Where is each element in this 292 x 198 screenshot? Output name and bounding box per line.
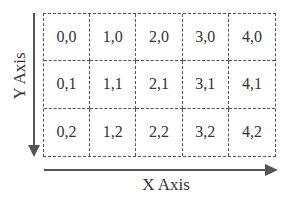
grid-cell: 4,0 — [229, 14, 275, 61]
cell-grid: 0,0 1,0 2,0 3,0 4,0 0,1 1,1 2,1 3,1 4,1 … — [43, 13, 276, 157]
y-axis-line — [33, 13, 35, 148]
x-axis-label: X Axis — [128, 175, 204, 195]
grid-cell: 2,2 — [136, 109, 182, 156]
grid-cell: 3,2 — [183, 109, 229, 156]
grid-cell: 3,0 — [183, 14, 229, 61]
grid-cell: 0,1 — [44, 61, 90, 108]
grid-cell: 4,2 — [229, 109, 275, 156]
grid-cell: 2,0 — [136, 14, 182, 61]
grid-cell: 0,0 — [44, 14, 90, 61]
grid-cell: 2,1 — [136, 61, 182, 108]
x-axis-line — [44, 169, 266, 171]
grid-cell: 1,2 — [90, 109, 136, 156]
x-axis-arrow-icon — [265, 164, 278, 176]
y-axis-label: Y Axis — [10, 38, 30, 114]
grid-cell: 0,2 — [44, 109, 90, 156]
grid-cell: 1,0 — [90, 14, 136, 61]
grid-cell: 3,1 — [183, 61, 229, 108]
grid-cell: 1,1 — [90, 61, 136, 108]
y-axis-arrow-icon — [28, 145, 40, 157]
grid-cell: 4,1 — [229, 61, 275, 108]
